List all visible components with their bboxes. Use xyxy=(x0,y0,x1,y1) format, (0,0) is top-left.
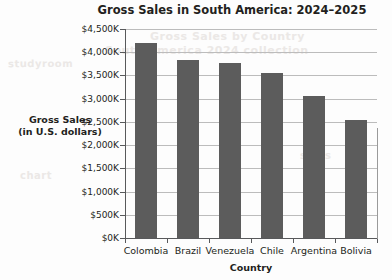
gridline xyxy=(125,168,377,169)
y-axis-tick-label: $1,500K xyxy=(82,163,119,173)
plot-right-border xyxy=(377,128,378,239)
x-axis-tick-label: Colombia xyxy=(124,245,169,256)
y-axis-tick-label: $3,500K xyxy=(82,70,119,80)
bar xyxy=(345,120,367,238)
bar xyxy=(219,63,241,238)
y-axis-tick-label: $3,000K xyxy=(82,94,119,104)
gridline xyxy=(125,215,377,216)
bar xyxy=(177,60,199,238)
y-axis-line xyxy=(125,29,126,239)
bar xyxy=(303,96,325,238)
x-axis-tick-label: Venezuela xyxy=(206,245,255,256)
x-axis-tick-label: Chile xyxy=(260,245,284,256)
bar-chart-figure: studyroom Gross Sales by Country South A… xyxy=(0,0,392,280)
plot-area: $0K$500K$1,000K$1,500K$2,000K$2,500K$3,0… xyxy=(125,29,377,238)
y-axis-tick-label: $1,000K xyxy=(82,187,119,197)
gridline xyxy=(125,52,377,53)
bar xyxy=(261,73,283,238)
x-axis-tick-label: Brazil xyxy=(175,245,202,256)
gridline xyxy=(125,29,377,30)
y-axis-tick-label: $4,000K xyxy=(82,47,119,57)
x-axis-title: Country xyxy=(125,262,377,273)
x-axis-tick-label: Argentina xyxy=(291,245,337,256)
x-axis-line xyxy=(125,238,378,239)
gridline xyxy=(125,122,377,123)
gridline xyxy=(125,75,377,76)
y-axis-tick-label: $2,000K xyxy=(82,140,119,150)
bar xyxy=(135,43,157,238)
y-axis-tick-label: $500K xyxy=(90,210,119,220)
watermark-text: studyroom xyxy=(8,58,73,69)
watermark-text: chart xyxy=(20,170,52,181)
chart-title: Gross Sales in South America: 2024–2025 xyxy=(0,3,392,17)
y-axis-tick-label: $0K xyxy=(102,233,119,243)
gridline xyxy=(125,99,377,100)
gridline xyxy=(125,145,377,146)
x-axis-tick-label: Bolivia xyxy=(340,245,372,256)
y-axis-title-line2: (in U.S. dollars) xyxy=(18,126,102,137)
y-axis-tick-label: $4,500K xyxy=(82,24,119,34)
y-axis-tick-label: $2,500K xyxy=(82,117,119,127)
gridline xyxy=(125,192,377,193)
